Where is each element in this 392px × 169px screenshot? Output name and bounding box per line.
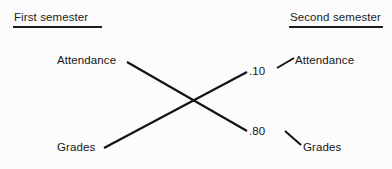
path-stub-to-right-grades (285, 131, 301, 145)
path-line-attendance-to-grades (127, 62, 247, 131)
node-first-semester-attendance: Attendance (57, 55, 116, 67)
path-coefficient-grades-to-attendance: .10 (249, 66, 265, 78)
node-second-semester-attendance: Attendance (295, 55, 354, 67)
path-coefficient-attendance-to-grades: .80 (249, 126, 265, 138)
node-first-semester-grades: Grades (57, 142, 95, 154)
path-stub-to-right-attendance (277, 58, 294, 68)
path-line-grades-to-attendance (104, 72, 247, 148)
cross-lagged-panel-diagram: First semester Second semester Attendanc… (0, 0, 392, 169)
node-second-semester-grades: Grades (303, 142, 341, 154)
